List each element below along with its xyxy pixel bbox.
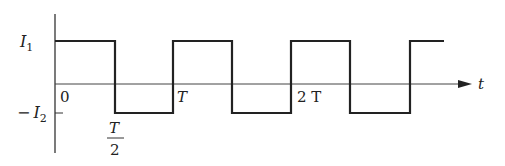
tick-label-0: 0 (60, 88, 70, 106)
tick-label-half-period-den: 2 (110, 141, 120, 159)
tick-label-two-period: 2 T (297, 88, 321, 106)
waveform (55, 41, 444, 113)
arrow-right-icon (458, 80, 472, 88)
time-axis-label: t (478, 75, 485, 93)
label-minus-i2: −I2 (17, 103, 47, 125)
label-i1: I1 (19, 32, 33, 54)
square-wave-diagram: I1 −I2 0 T 2 T 2 T t (0, 0, 505, 166)
tick-label-half-period-num: T (109, 119, 120, 137)
tick-label-period: T (177, 88, 188, 106)
